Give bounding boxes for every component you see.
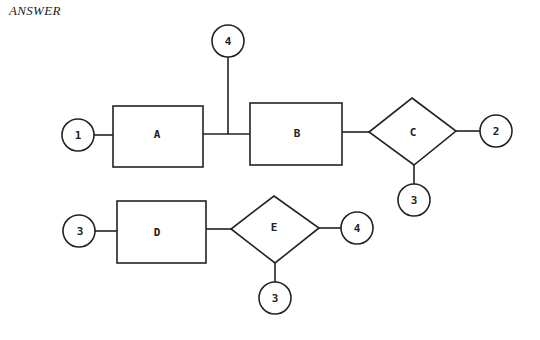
process-box-D (117, 201, 206, 263)
label-circle-3-bottom: 3 (272, 292, 279, 305)
label-circle-3-left: 3 (77, 225, 84, 238)
label-circle-1: 1 (75, 129, 82, 142)
label-diamond-C: C (410, 126, 417, 139)
label-circle-4-right: 4 (354, 222, 361, 235)
flow-diagram: 1 A 4 B C 2 3 3 D E 4 3 (0, 0, 540, 340)
label-circle-2: 2 (493, 125, 500, 138)
label-box-B: B (294, 127, 301, 140)
label-box-A: A (154, 128, 161, 141)
label-circle-3-upper: 3 (411, 194, 418, 207)
label-circle-4-top: 4 (225, 35, 232, 48)
label-box-D: D (154, 226, 161, 239)
label-diamond-E: E (271, 221, 278, 234)
